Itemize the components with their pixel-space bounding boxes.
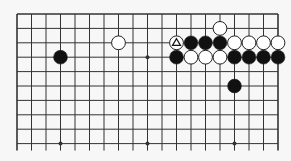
board-background [0,0,291,161]
black-stone [170,50,184,64]
white-stone [199,50,213,64]
white-stone [213,50,227,64]
go-board [0,0,291,161]
black-stone [213,36,227,50]
white-stone [228,36,242,50]
black-stone [228,79,242,93]
star-point [59,142,63,146]
black-stone [54,50,68,64]
black-stone [228,50,242,64]
black-stone [257,50,271,64]
white-stone [112,36,126,50]
star-point [146,55,150,59]
white-stone [184,50,198,64]
star-point [233,142,237,146]
black-stone [199,36,213,50]
white-stone [257,36,271,50]
black-stone [242,50,256,64]
black-stone [184,36,198,50]
black-stone [271,50,285,64]
white-stone [242,36,256,50]
white-stone [213,22,227,36]
white-stone [271,36,285,50]
star-point [146,142,150,146]
